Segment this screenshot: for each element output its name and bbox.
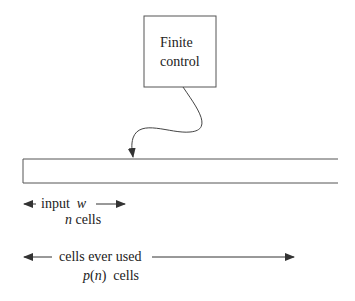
input-size-label: n cells (65, 212, 101, 228)
finite-control-box (144, 16, 216, 87)
cells-used-label: cells ever used (59, 249, 141, 265)
cells-used-size-label: p(n) cells (83, 268, 139, 284)
tape-head-arrow (132, 87, 202, 157)
finite-control-label-line2: control (160, 54, 200, 70)
input-label: input w (41, 196, 86, 212)
finite-control-label-line1: Finite (160, 35, 193, 51)
